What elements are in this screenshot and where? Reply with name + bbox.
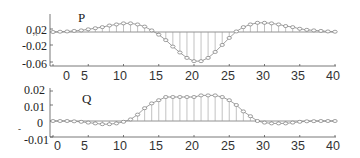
- x-tick-label: 35: [291, 70, 305, 83]
- x-tick-label: 30: [256, 140, 270, 153]
- x-tick-label: 40: [326, 140, 340, 153]
- p-ytick-3: -0.06: [22, 58, 47, 70]
- x-tick-label: 35: [291, 140, 305, 153]
- x-tick-label: 25: [221, 140, 235, 153]
- x-tick-label: 5: [81, 140, 88, 153]
- plot-p-title: P: [78, 10, 85, 26]
- q-ytick-4: -0.01: [24, 134, 49, 146]
- q-ytick-2: 0.01: [24, 101, 45, 113]
- x-tick-label: 25: [221, 70, 235, 83]
- stem-plots: [0, 0, 360, 158]
- q-ytick-3: 0: [37, 117, 43, 129]
- x-tick-label: 20: [185, 70, 199, 83]
- plot-q-title: Q: [82, 91, 91, 107]
- x-tick-label: 0: [63, 70, 70, 83]
- x-tick-label: 5: [81, 70, 88, 83]
- x-tick-label: 10: [113, 70, 127, 83]
- q-ytick-1: 0.02: [24, 84, 45, 96]
- x-tick-label: 0: [54, 140, 61, 153]
- q-stray-mark: -: [18, 125, 21, 134]
- x-tick-label: 15: [149, 70, 163, 83]
- x-tick-label: 30: [256, 70, 270, 83]
- x-tick-label: 20: [185, 140, 199, 153]
- x-tick-label: 40: [326, 70, 340, 83]
- x-tick-label: 15: [149, 140, 163, 153]
- p-ytick-2: -0.02: [22, 40, 47, 52]
- x-tick-label: 10: [113, 140, 127, 153]
